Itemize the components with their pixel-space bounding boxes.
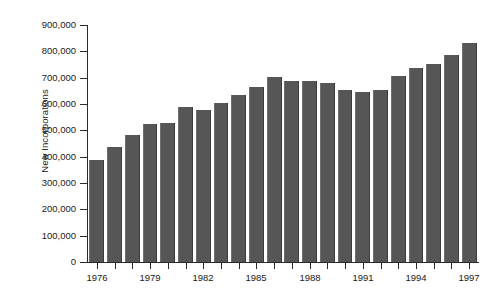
x-axis-tick-label: 1994 bbox=[396, 272, 436, 283]
bar bbox=[373, 90, 388, 262]
bar bbox=[89, 160, 104, 262]
bar bbox=[338, 90, 353, 262]
plot-area bbox=[88, 25, 478, 262]
x-axis-tick bbox=[416, 263, 417, 269]
x-axis-tick bbox=[132, 263, 133, 269]
y-axis-tick-label: 200,000 bbox=[20, 204, 76, 214]
x-axis-line bbox=[87, 262, 479, 263]
x-axis-tick bbox=[292, 263, 293, 269]
x-axis-tick-label: 1985 bbox=[236, 272, 276, 283]
bar bbox=[231, 95, 246, 262]
x-axis-tick bbox=[186, 263, 187, 269]
bar bbox=[462, 43, 477, 262]
y-axis-tick-label: 300,000 bbox=[20, 178, 76, 188]
x-axis-tick bbox=[274, 263, 275, 269]
x-axis-tick bbox=[239, 263, 240, 269]
y-axis-tick-label: 0 bbox=[20, 257, 76, 267]
x-axis-tick bbox=[221, 263, 222, 269]
bar bbox=[284, 81, 299, 262]
bar bbox=[320, 83, 335, 262]
bar bbox=[178, 107, 193, 262]
bar bbox=[355, 92, 370, 262]
x-axis-tick bbox=[203, 263, 204, 269]
x-axis-tick-label: 1997 bbox=[449, 272, 489, 283]
bar bbox=[444, 55, 459, 263]
x-axis-tick bbox=[434, 263, 435, 269]
bar bbox=[409, 68, 424, 262]
x-axis-tick bbox=[256, 263, 257, 269]
x-axis-tick bbox=[150, 263, 151, 269]
x-axis-tick-label: 1982 bbox=[183, 272, 223, 283]
x-axis-tick-label: 1988 bbox=[290, 272, 330, 283]
x-axis-tick bbox=[469, 263, 470, 269]
x-axis-tick bbox=[381, 263, 382, 269]
x-axis-tick bbox=[451, 263, 452, 269]
bar bbox=[143, 124, 158, 262]
x-axis-tick bbox=[363, 263, 364, 269]
bar bbox=[302, 81, 317, 262]
y-axis-tick-label: 600,000 bbox=[20, 99, 76, 109]
bar bbox=[214, 103, 229, 262]
bar bbox=[267, 77, 282, 262]
bar bbox=[196, 110, 211, 262]
bar bbox=[107, 147, 122, 262]
bar bbox=[160, 123, 175, 262]
x-axis-tick bbox=[115, 263, 116, 269]
x-axis-tick-label: 1976 bbox=[77, 272, 117, 283]
x-axis-tick-label: 1991 bbox=[343, 272, 383, 283]
y-axis-tick-label: 700,000 bbox=[20, 73, 76, 83]
y-axis-tick-label: 100,000 bbox=[20, 231, 76, 241]
bar bbox=[391, 76, 406, 262]
x-axis-tick bbox=[327, 263, 328, 269]
y-axis-tick-label: 400,000 bbox=[20, 152, 76, 162]
bar-chart: New Incorporations 0100,000200,000300,00… bbox=[0, 0, 503, 302]
bar bbox=[249, 87, 264, 262]
bar bbox=[426, 64, 441, 262]
x-axis-tick bbox=[310, 263, 311, 269]
x-axis-tick bbox=[168, 263, 169, 269]
y-axis-tick-label: 900,000 bbox=[20, 20, 76, 30]
bar bbox=[125, 135, 140, 262]
y-axis-tick-label: 800,000 bbox=[20, 46, 76, 56]
x-axis-tick-label: 1979 bbox=[130, 272, 170, 283]
y-axis-tick-label: 500,000 bbox=[20, 125, 76, 135]
x-axis-tick bbox=[345, 263, 346, 269]
x-axis-tick bbox=[398, 263, 399, 269]
x-axis-tick bbox=[97, 263, 98, 269]
